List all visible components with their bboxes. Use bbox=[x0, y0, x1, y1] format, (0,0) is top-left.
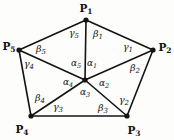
beta-1-subscript: 1 bbox=[99, 33, 103, 41]
gamma-5-subscript: 5 bbox=[75, 32, 79, 40]
angle-label-alpha-2: α2 bbox=[99, 79, 109, 89]
angle-label-alpha-5: α5 bbox=[71, 59, 81, 69]
vertex-label-p4-subscript: 4 bbox=[23, 128, 28, 137]
angle-label-beta-4: β4 bbox=[35, 93, 45, 105]
angle-label-gamma-1: γ1 bbox=[123, 42, 133, 54]
angle-label-alpha-4: α4 bbox=[63, 78, 73, 88]
angle-label-gamma-4: γ4 bbox=[24, 59, 34, 71]
gamma-1-subscript: 1 bbox=[129, 46, 133, 54]
vertex-label-p2-letter: P bbox=[158, 41, 166, 53]
angle-label-gamma-2: γ2 bbox=[119, 95, 129, 107]
angle-label-gamma-5: γ5 bbox=[69, 28, 79, 40]
spoke-center-p1 bbox=[85, 20, 86, 80]
alpha-2-subscript: 2 bbox=[105, 82, 109, 90]
vertex-label-p5: P5 bbox=[2, 41, 15, 54]
alpha-3-subscript: 3 bbox=[86, 91, 90, 99]
vertex-label-p1-subscript: 1 bbox=[87, 7, 92, 16]
angle-label-beta-3: β3 bbox=[98, 103, 108, 115]
alpha-4-subscript: 4 bbox=[69, 81, 73, 89]
beta-3-subscript: 3 bbox=[104, 107, 108, 115]
vertex-dot-p4 bbox=[28, 113, 33, 118]
vertex-dot-center bbox=[82, 77, 87, 82]
vertex-dot-p3 bbox=[124, 113, 129, 118]
vertex-label-p5-subscript: 5 bbox=[10, 45, 15, 54]
vertex-label-p3-subscript: 3 bbox=[135, 129, 140, 138]
vertex-label-p3: P3 bbox=[127, 125, 140, 138]
vertex-label-p1-letter: P bbox=[79, 2, 87, 14]
beta-2-subscript: 2 bbox=[136, 67, 140, 75]
vertex-label-p2: P2 bbox=[158, 42, 171, 55]
beta-4-subscript: 4 bbox=[41, 97, 45, 105]
vertex-label-p4: P4 bbox=[15, 124, 28, 137]
gamma-3-subscript: 3 bbox=[59, 106, 63, 114]
alpha-5-subscript: 5 bbox=[77, 62, 81, 70]
vertex-dot-p1 bbox=[83, 17, 88, 22]
angle-label-alpha-3: α3 bbox=[80, 88, 90, 98]
vertex-dot-p2 bbox=[150, 47, 155, 52]
angle-label-beta-1: β1 bbox=[93, 29, 103, 41]
gamma-4-subscript: 4 bbox=[30, 63, 34, 71]
pentagon-angle-diagram: P1 P2 P3 P4 P5 α1 α2 α3 α4 α5 β1 β2 β3 β… bbox=[0, 0, 174, 140]
angle-label-beta-5: β5 bbox=[36, 44, 46, 56]
gamma-2-subscript: 2 bbox=[125, 99, 129, 107]
vertex-label-p4-letter: P bbox=[15, 123, 23, 135]
angle-label-alpha-1: α1 bbox=[87, 59, 97, 69]
vertex-label-p3-letter: P bbox=[127, 124, 135, 136]
beta-5-subscript: 5 bbox=[42, 48, 46, 56]
alpha-1-subscript: 1 bbox=[93, 62, 97, 70]
vertex-label-p1: P1 bbox=[79, 3, 92, 16]
angle-label-beta-2: β2 bbox=[130, 63, 140, 75]
vertex-label-p5-letter: P bbox=[2, 40, 10, 52]
vertex-label-p2-subscript: 2 bbox=[166, 46, 171, 55]
angle-label-gamma-3: γ3 bbox=[53, 102, 63, 114]
vertex-dot-p5 bbox=[16, 47, 21, 52]
